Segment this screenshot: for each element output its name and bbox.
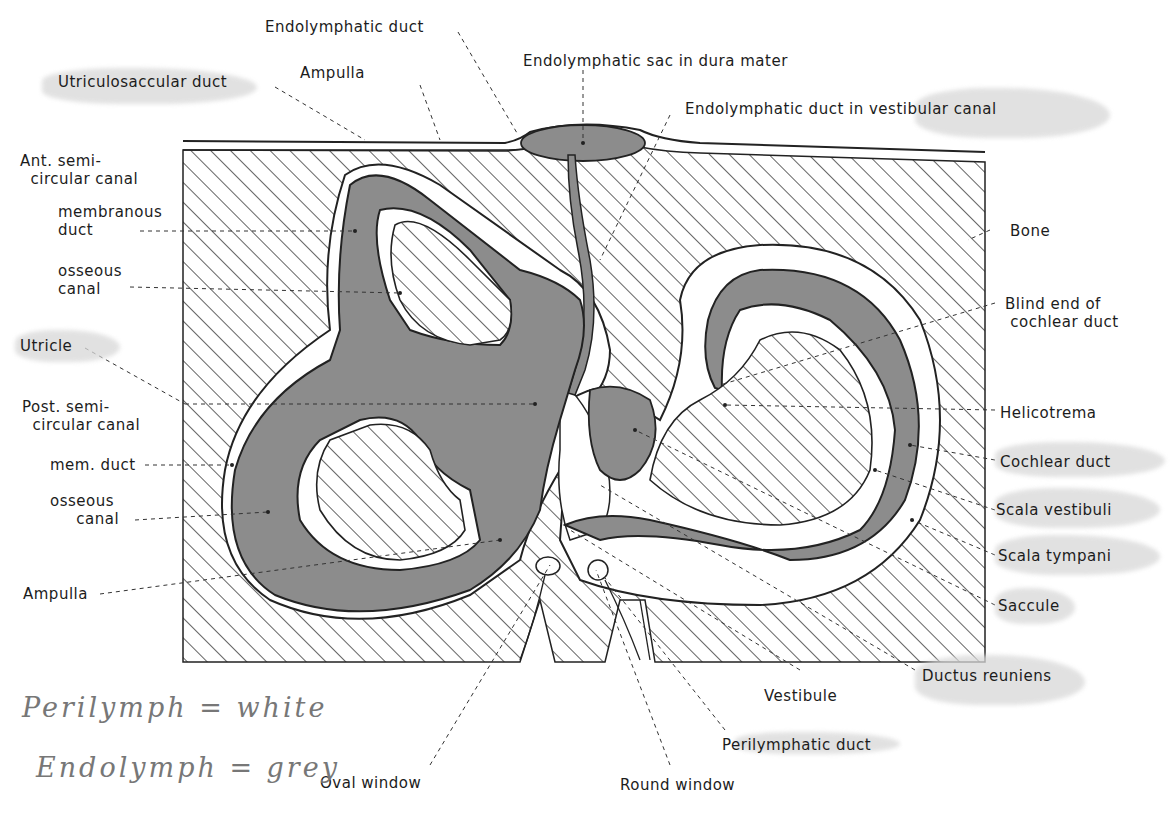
label-round-window: Round window: [620, 776, 735, 794]
label-mem-duct: mem. duct: [50, 456, 136, 474]
label-scala-tympani: Scala tympani: [998, 547, 1111, 565]
label-endolymphatic-sac: Endolymphatic sac in dura mater: [523, 52, 788, 70]
handwritten-note-endolymph: Endolymph = grey: [36, 752, 340, 783]
label-ampulla-top: Ampulla: [300, 64, 365, 82]
label-ampulla-bottom: Ampulla: [23, 585, 88, 603]
label-scala-vestibuli: Scala vestibuli: [996, 501, 1112, 519]
label-saccule: Saccule: [998, 597, 1060, 615]
label-osseous-canal-top: osseous canal: [58, 262, 122, 298]
label-membranous-duct: membranous duct: [58, 203, 162, 239]
label-vestibule: Vestibule: [764, 687, 837, 705]
label-helicotrema: Helicotrema: [1000, 404, 1097, 422]
label-endolymphatic-duct-vestibular: Endolymphatic duct in vestibular canal: [685, 100, 997, 118]
label-utriculosaccular-duct: Utriculosaccular duct: [58, 73, 227, 91]
label-utricle: Utricle: [20, 337, 72, 355]
label-perilymphatic-duct: Perilymphatic duct: [722, 736, 871, 754]
label-osseous-canal-bottom: osseous canal: [50, 492, 119, 528]
label-blind-end-cochlear-duct: Blind end of cochlear duct: [1005, 295, 1119, 331]
label-cochlear-duct: Cochlear duct: [1000, 453, 1111, 471]
label-ant-semicircular-canal: Ant. semi- circular canal: [20, 152, 138, 188]
label-bone: Bone: [1010, 222, 1050, 240]
label-post-semicircular-canal: Post. semi- circular canal: [22, 398, 140, 434]
label-endolymphatic-duct: Endolymphatic duct: [265, 18, 424, 36]
label-ductus-reuniens: Ductus reuniens: [922, 667, 1052, 685]
handwritten-note-perilymph: Perilymph = white: [22, 692, 327, 723]
